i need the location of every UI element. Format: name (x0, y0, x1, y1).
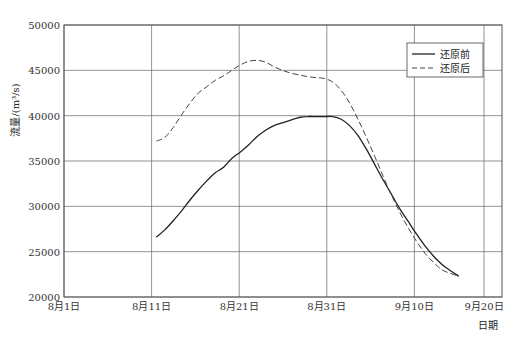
y-tick-label: 45000 (28, 65, 60, 76)
y-tick-label: 50000 (28, 20, 60, 31)
x-tick-label: 9月10日 (395, 301, 434, 312)
x-tick-label: 8月1日 (48, 301, 81, 312)
x-tick-label: 8月21日 (220, 301, 259, 312)
data-series (156, 60, 458, 276)
legend-label-before: 还原前 (440, 48, 470, 60)
series-line-before-restoration (156, 116, 458, 276)
x-axis-ticks: 8月1日8月11日8月21日8月31日9月10日9月20日 (48, 301, 504, 312)
series-line-after-restoration (156, 60, 458, 276)
flow-chart: 20000250003000035000400004500050000 8月1日… (0, 0, 518, 342)
x-tick-label: 8月11日 (132, 301, 171, 312)
y-tick-label: 35000 (28, 156, 60, 167)
y-tick-label: 25000 (28, 247, 60, 258)
x-tick-label: 8月31日 (307, 301, 346, 312)
y-axis-ticks: 20000250003000035000400004500050000 (28, 20, 60, 303)
y-tick-label: 40000 (28, 111, 60, 122)
x-axis-label: 日期 (478, 320, 498, 331)
legend-label-after: 还原后 (440, 63, 470, 74)
legend: 还原前 还原后 (407, 43, 483, 77)
y-tick-label: 30000 (28, 201, 60, 212)
y-axis-label: 流量/(m³/s) (9, 83, 21, 136)
x-tick-label: 9月20日 (464, 301, 503, 312)
